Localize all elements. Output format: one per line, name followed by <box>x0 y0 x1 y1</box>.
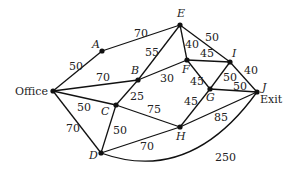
weight-b-f: 30 <box>160 72 174 85</box>
weight-a-e: 70 <box>134 27 148 40</box>
exit-label: Exit <box>260 93 283 106</box>
node-h <box>177 124 182 129</box>
weight-b-c: 25 <box>130 90 144 103</box>
weight-d-j: 250 <box>215 151 236 164</box>
node-label-g: G <box>206 91 215 104</box>
weight-h-j: 85 <box>214 111 228 124</box>
graph-canvas: Office A B C D E F G H I J Exit 50 70 70… <box>0 0 295 176</box>
node-a <box>99 48 104 53</box>
node-c <box>113 102 118 107</box>
node-label-e: E <box>176 7 185 20</box>
node-f <box>184 57 189 62</box>
node-label-c: C <box>101 105 110 118</box>
weight-e-i: 50 <box>205 31 219 44</box>
weight-f-g: 45 <box>190 75 204 88</box>
weight-office-d: 70 <box>66 122 80 135</box>
node-j <box>254 89 259 94</box>
node-d <box>98 150 103 155</box>
weight-f-i: 45 <box>200 47 214 60</box>
weight-office-c: 50 <box>77 101 91 114</box>
node-label-a: A <box>91 38 100 51</box>
node-office <box>50 88 55 93</box>
weight-d-h: 70 <box>140 140 154 153</box>
node-e <box>177 22 182 27</box>
weight-g-h: 45 <box>184 95 198 108</box>
weight-g-j: 50 <box>233 80 247 93</box>
weight-office-a: 50 <box>69 60 83 73</box>
node-label-f: F <box>181 63 190 76</box>
weight-e-f: 40 <box>185 38 199 51</box>
node-b <box>135 77 140 82</box>
node-label-office: Office <box>15 85 48 98</box>
weight-b-e: 55 <box>145 46 159 59</box>
node-label-d: D <box>88 149 98 162</box>
node-label-h: H <box>175 130 186 143</box>
node-label-b: B <box>130 64 139 77</box>
edge-f-i <box>187 60 230 62</box>
weight-i-j: 40 <box>244 64 258 77</box>
node-label-i: I <box>231 47 237 60</box>
weight-c-d: 50 <box>113 124 127 137</box>
weight-c-h: 75 <box>147 103 161 116</box>
weight-office-b: 70 <box>96 71 110 84</box>
node-i <box>227 59 232 64</box>
